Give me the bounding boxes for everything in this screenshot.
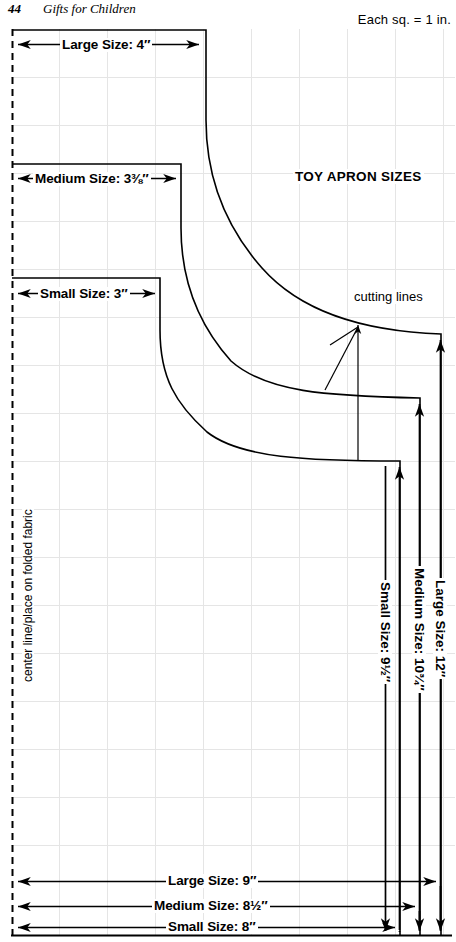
large-bottom-width-label: Large Size: 9″ — [166, 874, 258, 888]
small-top-width-label: Small Size: 3″ — [38, 287, 130, 301]
large-height-label: Large Size: 12″ — [434, 578, 448, 679]
medium-top-width-label: Medium Size: 3⅜″ — [33, 172, 151, 186]
pattern-page: 44Gifts for Children Each sq. = 1 in. — [0, 0, 456, 942]
cutting-lines-label: cutting lines — [352, 289, 425, 304]
center-fold-label: center line/place on folded fabric — [22, 507, 34, 684]
cutting-lines-leader — [325, 325, 358, 460]
medium-size-cutting-line — [12, 164, 420, 935]
diagram-title: TOY APRON SIZES — [293, 169, 424, 184]
medium-bottom-width-label: Medium Size: 8½″ — [152, 899, 270, 913]
large-top-width-label: Large Size: 4″ — [60, 38, 152, 52]
medium-height-label: Medium Size: 10¾″ — [413, 566, 427, 693]
small-height-label: Small Size: 9½″ — [379, 580, 393, 684]
grid-lines — [11, 29, 455, 936]
large-size-cutting-line — [12, 30, 441, 935]
small-size-cutting-line — [12, 278, 400, 935]
bottom-edge-arrowheads — [386, 466, 441, 932]
small-bottom-width-label: Small Size: 8″ — [166, 920, 258, 934]
toy-apron-pattern-diagram — [0, 0, 456, 942]
